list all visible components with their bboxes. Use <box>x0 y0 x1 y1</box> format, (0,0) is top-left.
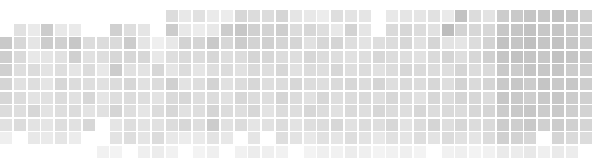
heatmap-cell <box>290 37 302 49</box>
heatmap-cell <box>179 10 191 22</box>
heatmap-cell <box>414 132 426 144</box>
heatmap-cell <box>359 51 371 63</box>
heatmap-cell <box>538 37 550 49</box>
heatmap-cell <box>580 51 592 63</box>
heatmap-cell <box>179 92 191 104</box>
heatmap-cell <box>566 78 578 90</box>
heatmap-cell <box>235 10 247 22</box>
heatmap-cell <box>110 92 122 104</box>
heatmap-cell <box>414 92 426 104</box>
heatmap-cell <box>511 24 523 36</box>
heatmap-cell <box>552 105 564 117</box>
heatmap-cell <box>290 105 302 117</box>
heatmap-cell <box>83 105 95 117</box>
heatmap-cell <box>193 37 205 49</box>
heatmap-cell <box>511 51 523 63</box>
heatmap-cell <box>483 37 495 49</box>
heatmap-cell <box>0 64 12 76</box>
heatmap-cell <box>28 119 40 131</box>
heatmap-cell <box>14 51 26 63</box>
heatmap-cell <box>166 105 178 117</box>
heatmap-cell <box>483 78 495 90</box>
heatmap-cell <box>511 78 523 90</box>
heatmap-cell <box>0 51 12 63</box>
heatmap-cell <box>0 92 12 104</box>
heatmap-cell <box>497 51 509 63</box>
heatmap-cell <box>331 132 343 144</box>
heatmap-cell <box>414 37 426 49</box>
heatmap-cell <box>221 64 233 76</box>
heatmap-cell <box>400 92 412 104</box>
heatmap-cell <box>55 24 67 36</box>
heatmap-cell <box>469 92 481 104</box>
heatmap-cell <box>28 132 40 144</box>
heatmap-cell <box>442 119 454 131</box>
heatmap-cell <box>276 146 288 158</box>
heatmap-cell <box>166 10 178 22</box>
heatmap-cell <box>193 51 205 63</box>
heatmap-cell <box>207 78 219 90</box>
heatmap-cell <box>552 78 564 90</box>
heatmap-cell <box>41 78 53 90</box>
heatmap-cell <box>442 24 454 36</box>
heatmap-cell <box>317 132 329 144</box>
heatmap-cell <box>221 132 233 144</box>
heatmap-cell <box>469 78 481 90</box>
heatmap-cell <box>442 132 454 144</box>
heatmap-cell <box>331 10 343 22</box>
heatmap-cell <box>428 119 440 131</box>
heatmap-cell <box>442 37 454 49</box>
heatmap-cell <box>235 78 247 90</box>
heatmap-cell <box>221 51 233 63</box>
heatmap-cell <box>428 64 440 76</box>
heatmap-cell <box>331 119 343 131</box>
heatmap-cell <box>193 146 205 158</box>
heatmap-cell <box>152 64 164 76</box>
heatmap-cell <box>442 64 454 76</box>
heatmap-cell <box>538 119 550 131</box>
heatmap-cell <box>110 64 122 76</box>
heatmap-cell <box>55 119 67 131</box>
heatmap-cell <box>221 105 233 117</box>
heatmap-cell <box>566 37 578 49</box>
heatmap-cell <box>97 64 109 76</box>
heatmap-cell <box>28 78 40 90</box>
heatmap-cell <box>193 132 205 144</box>
heatmap-cell <box>497 146 509 158</box>
heatmap-cell <box>414 64 426 76</box>
heatmap-cell <box>359 119 371 131</box>
heatmap-cell <box>110 119 122 131</box>
heatmap-cell <box>207 64 219 76</box>
heatmap-cell <box>483 24 495 36</box>
heatmap-cell <box>373 64 385 76</box>
heatmap-cell <box>428 10 440 22</box>
heatmap-cell <box>221 78 233 90</box>
heatmap-cell <box>317 92 329 104</box>
heatmap-cell <box>483 105 495 117</box>
heatmap-cell <box>124 92 136 104</box>
heatmap-cell <box>166 92 178 104</box>
heatmap-cell <box>0 78 12 90</box>
heatmap-cell <box>497 24 509 36</box>
heatmap-cell <box>497 78 509 90</box>
heatmap-cell <box>41 64 53 76</box>
heatmap-cell <box>235 146 247 158</box>
heatmap-cell <box>317 51 329 63</box>
heatmap-cell <box>469 64 481 76</box>
heatmap-cell <box>538 51 550 63</box>
heatmap-cell <box>276 51 288 63</box>
heatmap-cell <box>193 92 205 104</box>
heatmap-cell <box>386 146 398 158</box>
heatmap-cell <box>276 92 288 104</box>
heatmap-cell <box>511 119 523 131</box>
heatmap-cell <box>69 64 81 76</box>
heatmap-cell <box>235 92 247 104</box>
heatmap-cell <box>386 10 398 22</box>
heatmap-cell <box>179 64 191 76</box>
heatmap-cell <box>83 119 95 131</box>
heatmap-cell <box>400 132 412 144</box>
heatmap-cell <box>207 24 219 36</box>
heatmap-cell <box>304 92 316 104</box>
heatmap-cell <box>428 51 440 63</box>
heatmap-cell <box>345 78 357 90</box>
